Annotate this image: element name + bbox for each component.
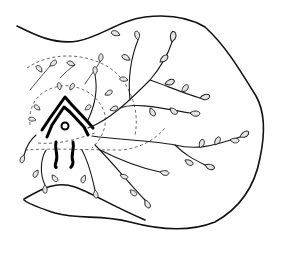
line-drawing-figure [0, 0, 290, 263]
terminal-bodies [19, 30, 250, 209]
